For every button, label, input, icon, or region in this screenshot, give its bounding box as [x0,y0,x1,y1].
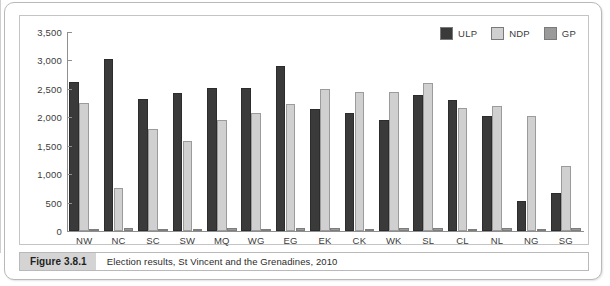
bar-gp [433,228,443,231]
bar-gp [89,229,99,231]
bar-group [67,32,101,231]
legend-swatch-ulp [440,27,453,40]
bar-ndp [527,116,537,231]
y-axis-tick-label: 1,000 [37,169,62,180]
x-axis-tick-label: NC [101,235,135,246]
y-axis-tick-label: 3,500 [37,27,62,38]
bar-ulp [482,116,492,231]
y-axis-tick-label: 2,500 [37,83,62,94]
bar-ndp [286,104,296,231]
legend-item-gp[interactable]: GP [544,27,576,40]
bar-ndp [148,129,158,231]
x-axis-tick-label: EK [308,235,342,246]
bar-group [170,32,204,231]
bar-ulp [138,99,148,231]
bar-ndp [355,92,365,231]
x-axis-tick-label: WK [377,235,411,246]
y-axis-tick-labels: 3,5003,0002,5002,0001,5001,0005000 [20,16,62,246]
bar-gp [227,228,237,231]
x-axis-tick-label: SL [411,235,445,246]
bar-ulp [310,109,320,231]
bar-ulp [345,113,355,231]
y-axis-tick-label: 1,500 [37,140,62,151]
bar-ulp [551,193,561,231]
legend-label-ndp: NDP [509,28,530,39]
bar-ndp [561,166,571,231]
y-axis-tick-mark [67,89,72,90]
x-axis-tick-label: SG [549,235,583,246]
bar-gp [399,228,409,231]
bar-gp [365,229,375,231]
x-axis-tick-label: MQ [205,235,239,246]
chart-legend: ULPNDPGP [440,27,576,40]
page-edge-rule [0,0,1,253]
x-axis-tick-label: NG [514,235,548,246]
y-axis-tick-mark [67,174,72,175]
chart-panel: 3,5003,0002,5002,0001,5001,0005000 ULPND… [19,15,589,245]
x-axis-tick-label: CL [445,235,479,246]
bar-ndp [183,141,193,231]
bar-group [411,32,445,231]
legend-item-ndp[interactable]: NDP [491,27,530,40]
bar-ulp [69,82,79,231]
legend-swatch-ndp [491,27,504,40]
bar-gp [296,228,306,231]
x-axis-tick-label: SW [170,235,204,246]
bar-group [273,32,307,231]
x-axis-tick-label: SC [136,235,170,246]
figure-caption-tag: Figure 3.8.1 [20,253,97,270]
legend-item-ulp[interactable]: ULP [440,27,477,40]
y-axis-tick-mark [67,146,72,147]
y-axis-tick-label: 3,000 [37,55,62,66]
y-axis-tick-label: 2,000 [37,112,62,123]
x-axis-tick-label: CK [342,235,376,246]
bar-ndp [458,108,468,231]
bar-ulp [241,88,251,231]
bar-group [136,32,170,231]
bar-ulp [379,120,389,231]
bar-group [205,32,239,231]
figure-caption-text: Election results, St Vincent and the Gre… [97,253,338,270]
bar-group [342,32,376,231]
y-axis-tick-label: 0 [57,226,62,237]
y-axis-tick-mark [67,203,72,204]
x-axis-tick-label: EG [273,235,307,246]
bar-group [101,32,135,231]
x-axis-tick-label: NW [67,235,101,246]
bar-group [445,32,479,231]
bar-ndp [251,113,261,231]
bar-gp [468,229,478,231]
bar-ulp [173,93,183,231]
figure-caption: Figure 3.8.1 Election results, St Vincen… [19,252,589,271]
x-axis-tick-label: NL [480,235,514,246]
bar-ulp [207,88,217,231]
bar-group [377,32,411,231]
bar-gp [193,229,203,231]
bar-group [308,32,342,231]
x-axis-line [67,231,584,232]
figure-frame: 3,5003,0002,5002,0001,5001,0005000 ULPND… [4,2,602,280]
bar-ndp [79,103,89,231]
bar-group [480,32,514,231]
bar-ndp [423,83,433,231]
bar-ulp [413,95,423,231]
bar-ndp [217,120,227,231]
plot-area [67,32,583,231]
legend-label-ulp: ULP [458,28,477,39]
bar-gp [158,229,168,231]
y-axis-tick-mark [67,60,72,61]
bar-gp [571,228,581,231]
bar-ulp [104,59,114,231]
bar-ndp [320,89,330,231]
bar-ulp [448,100,458,231]
bar-group [239,32,273,231]
bar-gp [124,228,134,231]
bar-group [514,32,548,231]
bar-ndp [389,92,399,231]
bar-gp [261,229,271,231]
legend-label-gp: GP [562,28,576,39]
bar-gp [537,229,547,231]
bar-ulp [517,201,527,231]
x-axis-tick-label: WG [239,235,273,246]
y-axis-tick-label: 500 [46,197,62,208]
